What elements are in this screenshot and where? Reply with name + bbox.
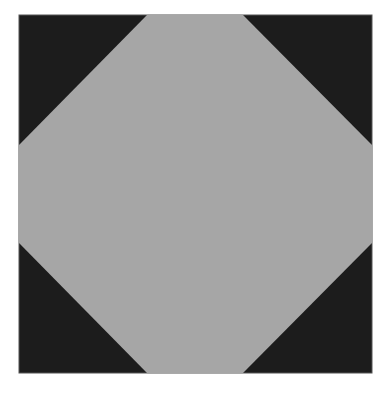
figure-canvas <box>0 0 390 395</box>
